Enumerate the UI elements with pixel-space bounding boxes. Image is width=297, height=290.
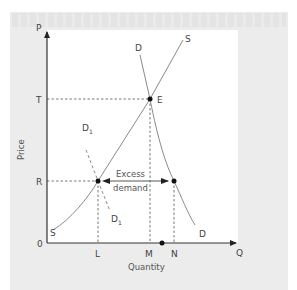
supply-label-top: S bbox=[185, 34, 191, 44]
excess-demand-line2: demand bbox=[113, 183, 148, 193]
point-on-q-axis bbox=[160, 241, 165, 246]
supply-label-bottom: S bbox=[50, 228, 56, 238]
quantity-label-N: N bbox=[171, 249, 178, 259]
x-axis-symbol: Q bbox=[236, 248, 243, 258]
demand-label-top: D bbox=[135, 43, 142, 53]
excess-demand-arrowhead-left bbox=[102, 178, 110, 184]
x-axis-title: Quantity bbox=[128, 262, 165, 272]
y-axis-symbol: P bbox=[36, 23, 42, 33]
excess-demand-line1: Excess bbox=[116, 169, 146, 179]
equilibrium-label-E: E bbox=[157, 95, 163, 105]
price-label-R: R bbox=[36, 177, 42, 187]
supply-demand-diagram: P Q 0 Price Quantity T R L M N S S D D D… bbox=[0, 0, 297, 290]
price-label-T: T bbox=[35, 95, 42, 105]
figure-caption-cropped bbox=[22, 283, 222, 290]
quantity-label-M: M bbox=[145, 249, 153, 259]
demand-label-bottom: D bbox=[199, 229, 206, 239]
point-R-L bbox=[96, 179, 101, 184]
demand-1-label-top-sub: 1 bbox=[89, 128, 93, 135]
equilibrium-point-E bbox=[148, 97, 153, 102]
point-R-N bbox=[172, 179, 177, 184]
y-axis-title: Price bbox=[16, 139, 26, 160]
demand-1-label-bottom: D bbox=[111, 214, 118, 224]
supply-curve bbox=[53, 40, 183, 230]
origin-label: 0 bbox=[37, 239, 43, 249]
demand-curve bbox=[140, 55, 195, 225]
demand-1-label-top: D bbox=[82, 123, 89, 133]
quantity-label-L: L bbox=[95, 249, 100, 259]
demand-1-label-bottom-sub: 1 bbox=[118, 219, 122, 226]
